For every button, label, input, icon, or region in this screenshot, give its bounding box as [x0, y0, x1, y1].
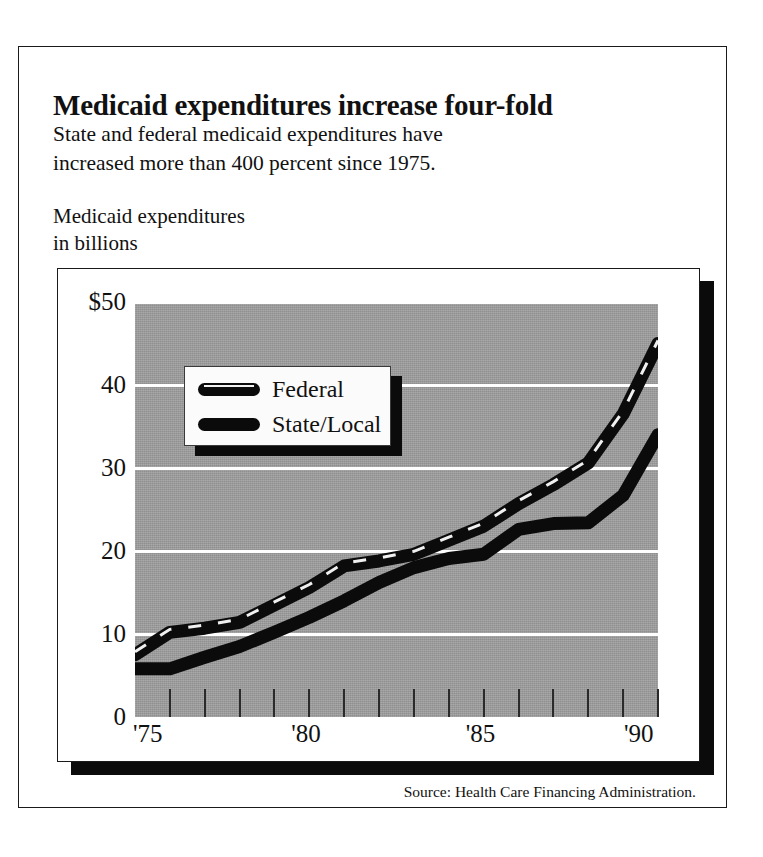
- x-axis-tick-label: '80: [291, 721, 321, 746]
- y-axis-caption: Medicaid expenditures in billions: [53, 203, 245, 256]
- deck-line: State and federal medicaid expenditures …: [53, 120, 653, 149]
- y-axis-tick-labels: 010203040$50: [58, 302, 126, 717]
- y-axis-tick-label: 30: [101, 455, 126, 480]
- x-axis-tick-label: '90: [624, 721, 654, 746]
- deck-text: State and federal medicaid expenditures …: [53, 120, 653, 178]
- y-axis-tick-label: $50: [89, 289, 127, 314]
- dashed-line-swatch-icon: [198, 383, 260, 396]
- x-axis-tick-label: '75: [133, 721, 163, 746]
- page-title: Medicaid expenditures increase four-fold: [53, 90, 673, 122]
- x-axis-tick-label: '85: [466, 721, 496, 746]
- chart-card: 010203040$50 '75'80'85'90 Federal State/…: [57, 268, 700, 762]
- page-frame: Medicaid expenditures increase four-fold…: [18, 46, 727, 808]
- chart-legend: Federal State/Local: [184, 366, 391, 446]
- plot-area: [135, 302, 658, 717]
- y-axis-caption-line: Medicaid expenditures: [53, 203, 245, 230]
- legend-item-federal: Federal: [198, 372, 344, 406]
- y-axis-tick-label: 10: [101, 621, 126, 646]
- data-series-layer: [135, 302, 658, 717]
- y-axis-tick-label: 20: [101, 538, 126, 563]
- y-axis-caption-line: in billions: [53, 230, 245, 257]
- legend-item-state-local: State/Local: [198, 407, 381, 441]
- deck-line: increased more than 400 percent since 19…: [53, 149, 653, 178]
- solid-line-swatch-icon: [198, 418, 260, 431]
- y-axis-tick-label: 40: [101, 372, 126, 397]
- legend-item-label: State/Local: [272, 412, 381, 436]
- y-axis-tick-label: 0: [114, 704, 127, 729]
- legend-item-label: Federal: [272, 377, 344, 401]
- source-note: Source: Health Care Financing Administra…: [19, 783, 696, 801]
